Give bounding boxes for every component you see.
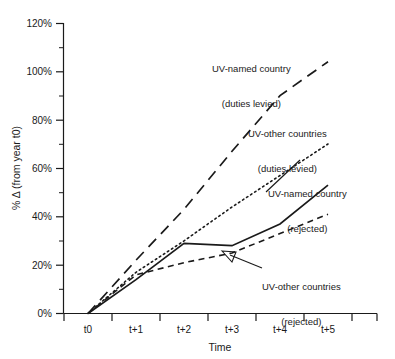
x-tick-label-t1: t+1	[129, 324, 144, 335]
y-tick-label-120: 120%	[26, 18, 52, 29]
annotation-uv-named-rejected: UV-named country (rejected)	[268, 165, 347, 257]
annotation-line-1: UV-other countries	[248, 128, 327, 140]
annotation-line-2: (rejected)	[262, 316, 341, 328]
annotation-line-1: UV-named country	[212, 63, 291, 75]
annotation-line-2: (rejected)	[268, 223, 347, 235]
y-tick-label-20: 20%	[32, 260, 52, 271]
x-tick-label-t0: t0	[84, 324, 93, 335]
annotation-uv-other-rejected: UV-other countries (rejected)	[262, 258, 341, 350]
y-axis-major-ticks	[56, 24, 64, 314]
annotation-line-1: UV-named country	[268, 188, 347, 200]
y-axis-title: % Δ (from year t0)	[10, 126, 22, 210]
x-tick-label-t3: t+3	[225, 324, 240, 335]
y-tick-label-80: 80%	[32, 115, 52, 126]
annotation-line-1: UV-other countries	[262, 281, 341, 293]
y-tick-label-0: 0%	[38, 308, 53, 319]
y-tick-label-40: 40%	[32, 211, 52, 222]
chart-container: 120% 100% 80% 60% 40% 20% 0% t0 t+1 t+2 …	[0, 0, 395, 359]
y-tick-label-100: 100%	[26, 66, 52, 77]
x-tick-label-t2: t+2	[177, 324, 192, 335]
x-axis-title: Time	[209, 341, 232, 353]
y-tick-label-60: 60%	[32, 163, 52, 174]
leader-line-uv-other-rejected	[230, 255, 262, 268]
